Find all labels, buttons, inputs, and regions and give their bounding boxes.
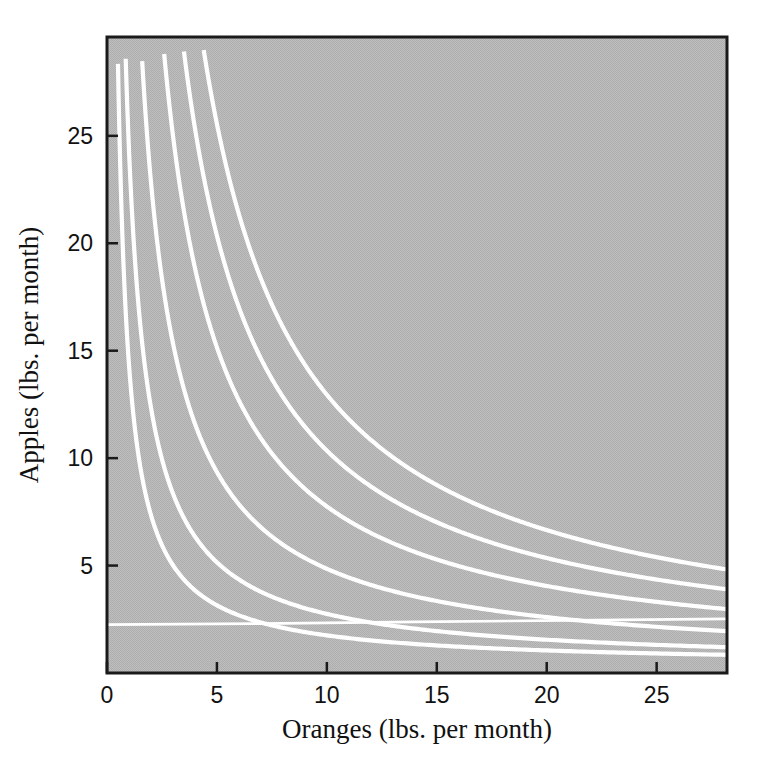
x-tick-label: 0 [101,682,114,708]
x-tick-label: 10 [314,682,340,708]
indifference-curve-chart: 0510152025 510152025 Oranges (lbs. per m… [0,0,765,779]
y-tick-label: 15 [67,338,93,364]
chart-figure: 0510152025 510152025 Oranges (lbs. per m… [0,0,765,779]
y-tick-label: 10 [67,445,93,471]
y-tick-label: 5 [80,553,93,579]
y-axis-title: Apples (lbs. per month) [14,227,44,483]
y-tick-label: 25 [67,123,93,149]
y-tick-label: 20 [67,230,93,256]
x-tick-label: 5 [211,682,224,708]
x-tick-label: 15 [424,682,450,708]
x-tick-label: 20 [534,682,560,708]
x-axis-title: Oranges (lbs. per month) [282,714,552,744]
x-tick-label: 25 [644,682,670,708]
